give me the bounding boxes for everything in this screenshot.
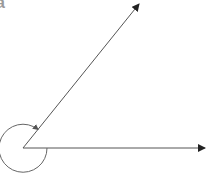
angle-diagram [0,0,206,175]
upper-ray [23,4,139,148]
